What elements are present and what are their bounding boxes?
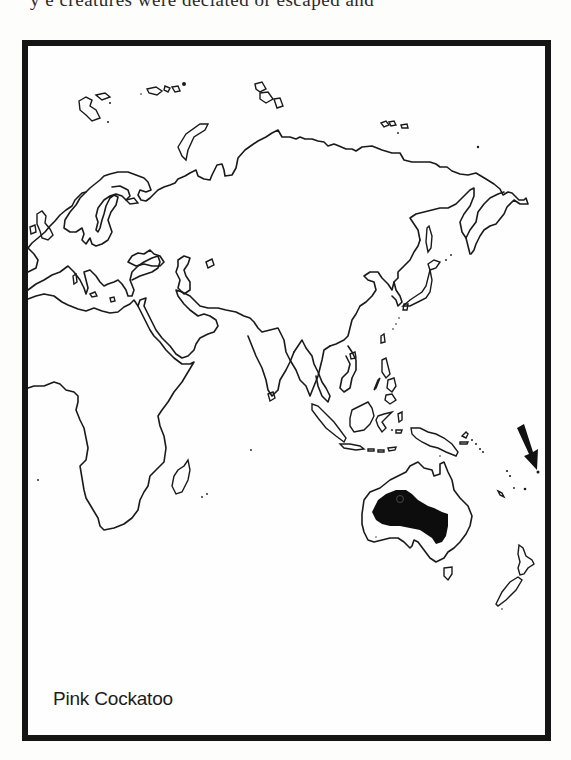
pink-cockatoo-range (372, 490, 448, 544)
western-europe-coastline (28, 248, 38, 272)
new-siberian-islands (381, 121, 408, 134)
mediterranean-north-coast (28, 256, 160, 296)
novaya-zemlya (178, 124, 208, 160)
crete (110, 297, 115, 302)
japan-islands (392, 226, 452, 330)
distribution-map (0, 0, 571, 760)
okhotsk-kamchatka-coastline (410, 188, 504, 240)
maluku-islands (391, 429, 402, 433)
africa-coastline (28, 294, 194, 530)
tasmania (444, 567, 452, 580)
persian-gulf-coast (182, 292, 330, 396)
sumatra (312, 404, 346, 442)
lesser-sunda-islands (368, 447, 396, 452)
kamchatka (466, 238, 470, 254)
gulf-bothnia-edge (126, 198, 138, 204)
borneo (350, 402, 374, 432)
severnaya-zemlya (255, 82, 283, 108)
taiwan (381, 334, 385, 343)
red-sea-arabia-coastline (138, 290, 218, 358)
aral-sea (206, 259, 214, 268)
sulawesi (376, 412, 392, 432)
corsica-sardinia (73, 274, 77, 284)
scandinavia-coastline (64, 186, 130, 246)
map-caption: Pink Cockatoo (53, 688, 173, 710)
sicily (90, 292, 97, 297)
new-zealand-south-island (496, 577, 522, 606)
philippines (374, 358, 396, 404)
svalbard-islands (79, 93, 111, 123)
halmahera (398, 412, 402, 422)
india-coastline (248, 336, 294, 396)
vanuatu-new-caledonia (498, 470, 526, 497)
java (340, 444, 364, 450)
indochina-china-coast (330, 240, 420, 346)
madagascar (172, 460, 190, 494)
new-zealand-north-island (518, 545, 534, 575)
caspian-sea (176, 256, 190, 294)
new-guinea (411, 428, 458, 456)
eurasia-coastline (28, 130, 528, 254)
arrow-icon (517, 424, 538, 470)
arrow-target-island (537, 471, 540, 474)
bismarck-solomon-islands (439, 432, 484, 457)
franz-josef-land (140, 82, 186, 95)
